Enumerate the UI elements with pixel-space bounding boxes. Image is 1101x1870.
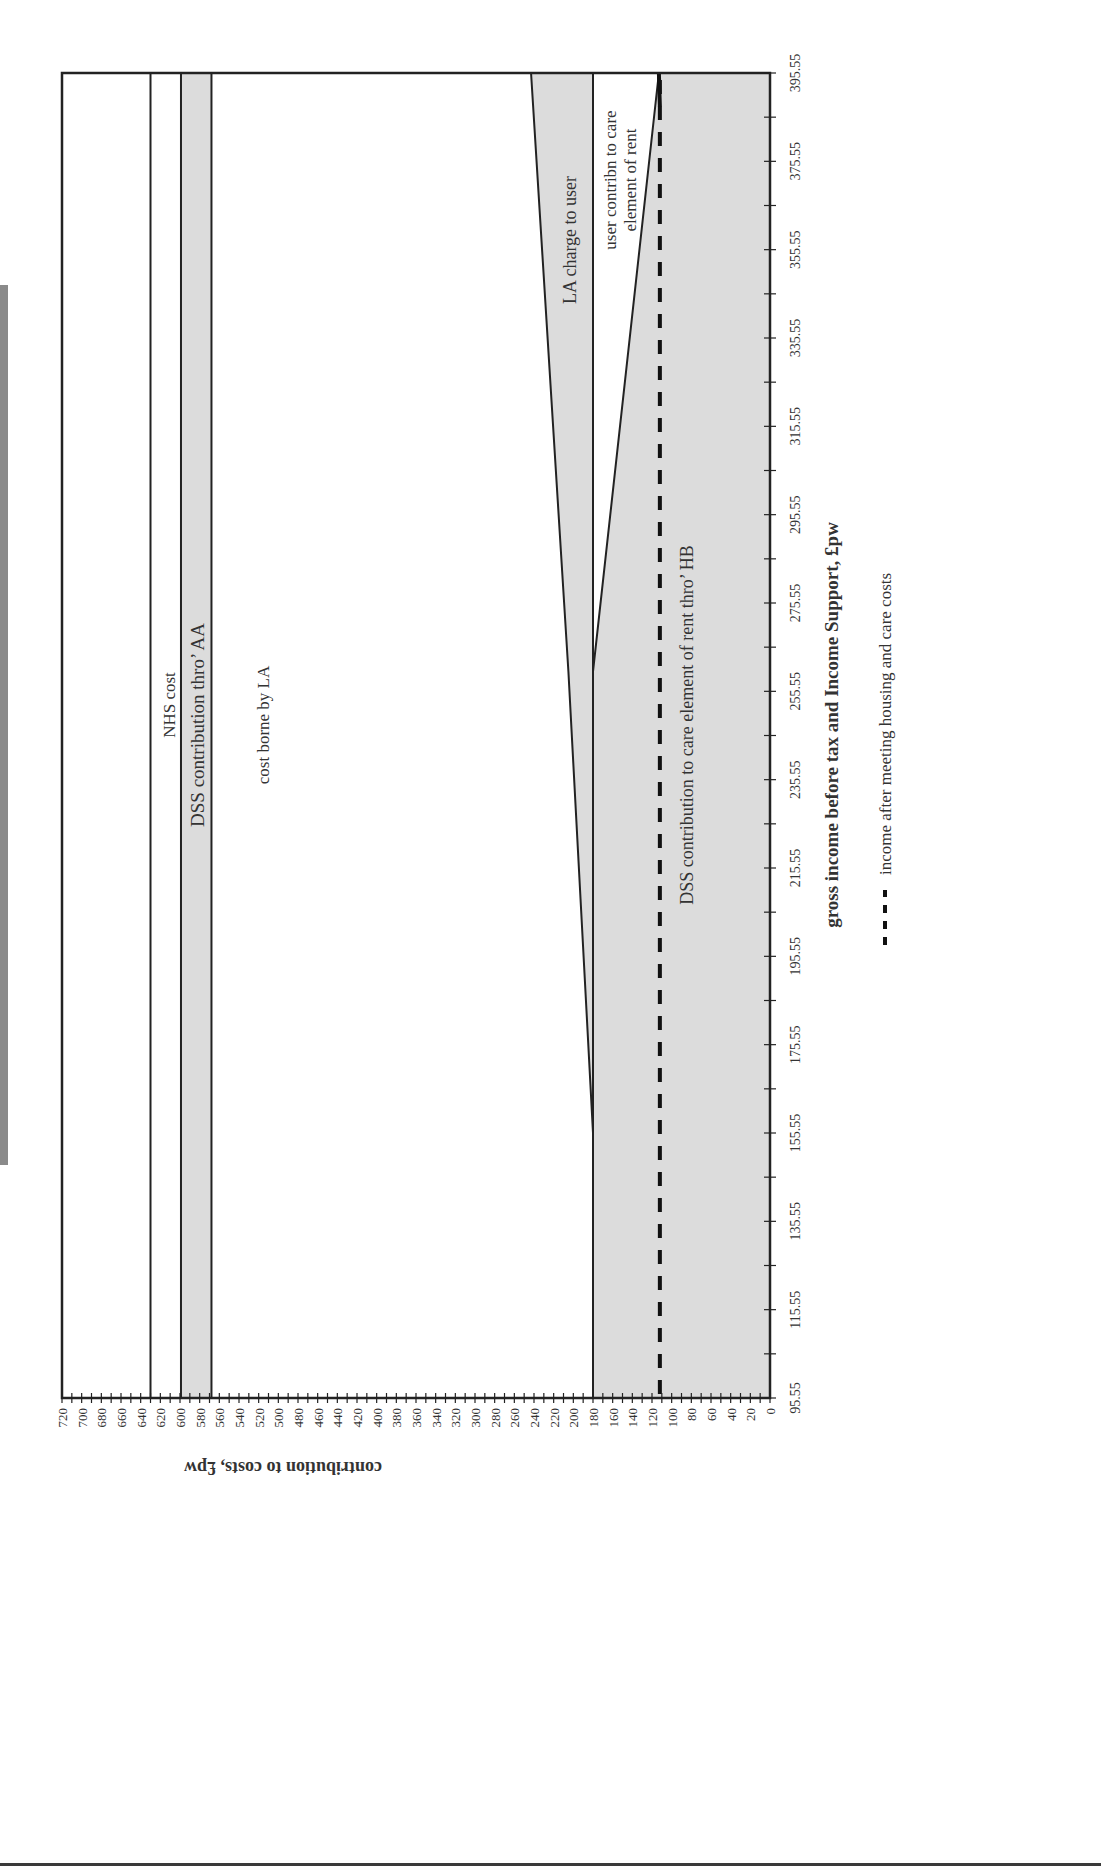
y-tick-label: 560 [212,1408,227,1428]
y-tick-label: 160 [606,1408,621,1428]
label-cost-borne-by-la: cost borne by LA [254,665,273,784]
x-tick-label: 315.55 [788,407,803,446]
legend: income after meeting housing and care co… [876,573,895,945]
y-tick-label: 240 [527,1408,542,1428]
y-tick-label: 600 [173,1408,188,1428]
y-tick-label: 380 [389,1408,404,1428]
area-6 [62,73,151,1398]
y-tick-label: 180 [586,1408,601,1428]
y-tick-label: 360 [409,1408,424,1428]
y-tick-label: 120 [645,1408,660,1428]
y-tick-label: 260 [507,1408,522,1428]
y-tick-label: 320 [448,1408,463,1428]
y-tick-label: 700 [75,1408,90,1428]
label-user-contrib-1: user contribn to care [601,110,620,249]
label-dss-hb: DSS contribution to care element of rent… [677,545,697,905]
y-tick-label: 220 [547,1408,562,1428]
x-tick-label: 135.55 [788,1202,803,1241]
y-tick-label: 60 [704,1408,719,1421]
label-dss-aa: DSS contribution thro’ AA [187,623,208,827]
y-tick-label: 40 [724,1408,739,1421]
y-tick-label: 660 [114,1408,129,1428]
y-axis-title: contribution to costs, £pw [184,1458,382,1478]
y-tick-label: 480 [291,1408,306,1428]
y-tick-label: 100 [665,1408,680,1428]
y-tick-label: 80 [684,1408,699,1421]
x-tick-label: 275.55 [788,584,803,623]
label-user-contrib-2: element of rent [621,128,640,231]
y-tick-label: 300 [468,1408,483,1428]
x-tick-label: 255.55 [788,672,803,711]
y-tick-label: 440 [330,1408,345,1428]
x-tick-label: 175.55 [788,1025,803,1064]
x-tick-label: 215.55 [788,849,803,888]
y-tick-label: 640 [134,1408,149,1428]
y-tick-label: 0 [763,1408,778,1415]
y-tick-label: 620 [153,1408,168,1428]
x-tick-label: 395.55 [788,54,803,93]
y-tick-label: 20 [743,1408,758,1421]
x-axis-title: gross income before tax and Income Suppo… [821,522,842,928]
y-tick-label: 540 [232,1408,247,1428]
y-tick-label: 500 [271,1408,286,1428]
y-tick-label: 420 [350,1408,365,1428]
y-tick-label: 720 [55,1408,70,1428]
y-tick-label: 340 [429,1408,444,1428]
x-tick-label: 355.55 [788,230,803,269]
y-tick-label: 460 [311,1408,326,1428]
x-tick-label: 155.55 [788,1114,803,1153]
y-tick-label: 400 [370,1408,385,1428]
x-tick-label: 115.55 [788,1291,803,1329]
x-tick-label: 235.55 [788,760,803,799]
x-tick-label: 375.55 [788,142,803,181]
y-tick-label: 140 [625,1408,640,1428]
x-tick-label: 195.55 [788,937,803,976]
y-tick-label: 280 [488,1408,503,1428]
y-tick-label: 680 [94,1408,109,1428]
chart: 0204060801001201401601802002202402602803… [0,0,1101,1870]
label-la-charge: LA charge to user [560,176,580,304]
x-tick-label: 95.55 [788,1382,803,1414]
x-tick-label: 295.55 [788,495,803,534]
x-tick-label: 335.55 [788,319,803,358]
y-tick-label: 580 [193,1408,208,1428]
y-tick-label: 520 [252,1408,267,1428]
legend-label: income after meeting housing and care co… [876,573,895,875]
label-nhs-cost: NHS cost [160,672,179,738]
y-tick-label: 200 [566,1408,581,1428]
